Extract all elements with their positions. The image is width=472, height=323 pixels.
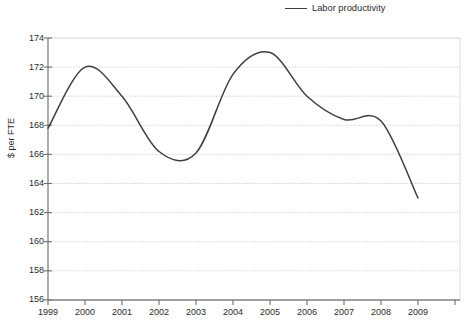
y-gridlines bbox=[48, 38, 460, 271]
x-axis-ticks bbox=[48, 300, 455, 305]
labor-productivity-line-chart: Labor productivity $ per FTE 174 172 170… bbox=[0, 0, 472, 323]
data-series-labor-productivity bbox=[48, 52, 418, 198]
plot-area bbox=[0, 0, 472, 323]
